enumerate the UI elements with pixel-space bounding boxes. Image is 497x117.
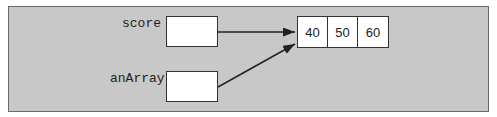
arrow-anarray-to-array bbox=[218, 44, 295, 87]
reference-arrows bbox=[0, 0, 497, 117]
